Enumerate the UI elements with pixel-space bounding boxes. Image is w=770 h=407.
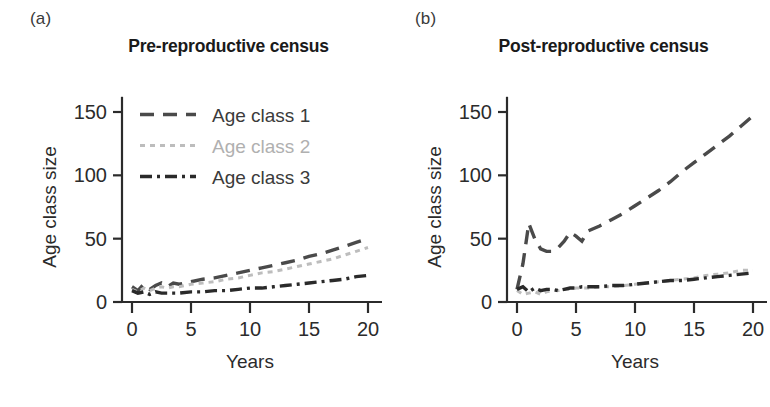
series-line-age-class-1: [132, 239, 368, 291]
series-line-age-class-1: [517, 116, 753, 290]
x-tick-label-0: 0: [511, 318, 522, 340]
series-line-age-class-2: [517, 270, 753, 294]
legend-label-1: Age class 1: [212, 105, 310, 126]
panel-a-plot: 05010015005101520YearsAge class sizeAge …: [0, 0, 385, 407]
legend-label-3: Age class 3: [212, 167, 310, 188]
x-tick-label-5: 5: [570, 318, 581, 340]
series-line-age-class-2: [132, 248, 368, 292]
x-tick-label-10: 10: [239, 318, 261, 340]
y-axis-title: Age class size: [39, 146, 60, 267]
y-tick-label-100: 100: [459, 164, 492, 186]
x-tick-label-15: 15: [298, 318, 320, 340]
x-tick-label-10: 10: [624, 318, 646, 340]
y-tick-label-150: 150: [74, 101, 107, 123]
y-tick-label-100: 100: [74, 164, 107, 186]
y-tick-label-150: 150: [459, 101, 492, 123]
y-axis-title: Age class size: [424, 146, 445, 267]
panel-a: (a) Pre-reproductive census 050100150051…: [0, 0, 385, 407]
y-tick-label-0: 0: [96, 291, 107, 313]
legend-label-2: Age class 2: [212, 136, 310, 157]
x-axis-title: Years: [226, 351, 274, 372]
panel-b: (b) Post-reproductive census 05010015005…: [385, 0, 770, 407]
x-tick-label-5: 5: [185, 318, 196, 340]
x-tick-label-15: 15: [683, 318, 705, 340]
x-tick-label-20: 20: [742, 318, 764, 340]
y-tick-label-50: 50: [470, 228, 492, 250]
x-tick-label-0: 0: [126, 318, 137, 340]
panel-b-plot: 05010015005101520YearsAge class size: [385, 0, 770, 407]
series-line-age-class-3: [517, 273, 753, 292]
y-tick-label-0: 0: [481, 291, 492, 313]
series-line-age-class-3: [132, 275, 368, 294]
y-tick-label-50: 50: [85, 228, 107, 250]
figure-two-panel-chart: (a) Pre-reproductive census 050100150051…: [0, 0, 770, 407]
x-tick-label-20: 20: [357, 318, 379, 340]
x-axis-title: Years: [611, 351, 659, 372]
